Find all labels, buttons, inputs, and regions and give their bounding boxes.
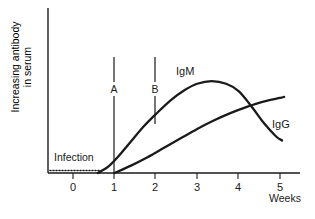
x-tick-label-4: 4: [228, 182, 248, 193]
igg-series-label: IgG: [272, 119, 290, 130]
x-axis-title: Weeks: [269, 193, 301, 204]
x-tick-label-3: 3: [187, 182, 207, 193]
igm-series-label: IgM: [176, 66, 194, 77]
igm-curve: [98, 81, 282, 173]
igg-curve: [114, 97, 284, 173]
x-tick-label-5: 5: [270, 182, 290, 193]
y-axis-title-line2: in serum: [21, 19, 33, 115]
timepoint-a-label: A: [108, 84, 120, 95]
y-axis-title-line1: Increasing antibody: [9, 19, 21, 115]
x-tick-label-2: 2: [145, 182, 165, 193]
x-axis-ticks: [73, 173, 280, 179]
y-axis-title: Increasing antibody in serum: [9, 19, 39, 115]
timepoint-b-label: B: [149, 84, 161, 95]
x-tick-label-1: 1: [104, 182, 124, 193]
antibody-response-chart: Increasing antibody in serum Weeks 0 1 2…: [0, 0, 315, 219]
x-tick-label-0: 0: [63, 182, 83, 193]
infection-label: Infection: [54, 152, 94, 163]
